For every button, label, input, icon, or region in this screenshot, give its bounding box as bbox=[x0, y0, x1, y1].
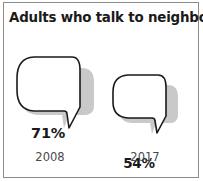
value-label-2008: 71% bbox=[14, 125, 82, 141]
data-point-2017: 54% bbox=[110, 71, 190, 139]
data-point-2008: 71% bbox=[14, 52, 106, 138]
infographic-card: Adults who talk to neighbors 71% 54% 200… bbox=[0, 0, 203, 181]
category-label-2017: 2017 bbox=[110, 150, 180, 164]
speech-bubble-2017 bbox=[110, 71, 190, 139]
category-label-2008: 2008 bbox=[14, 150, 86, 164]
chart-title: Adults who talk to neighbors bbox=[9, 10, 195, 26]
